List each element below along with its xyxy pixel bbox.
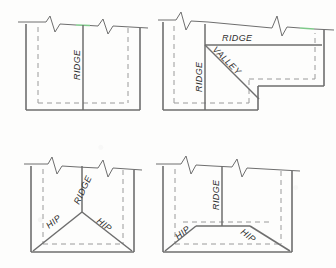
break-line-top-accent <box>300 28 314 29</box>
break-line-top-right <box>78 160 142 177</box>
panel-top-left: RIDGE <box>18 16 148 110</box>
label-hip-left: HIP <box>44 213 63 231</box>
label-ridge-vertical: RIDGE <box>211 179 221 210</box>
break-line-top <box>156 156 213 174</box>
label-ridge-vertical: RIDGE <box>194 61 204 92</box>
label-hip-left: HIP <box>173 224 192 242</box>
panel-bottom-right: RIDGE HIP HIP <box>156 156 300 252</box>
break-line-top-right <box>314 29 334 30</box>
label-ridge-vertical: RIDGE <box>72 49 82 80</box>
break-line-top <box>24 157 78 174</box>
roof-plan-diagram-sheet: RIDGE RIDGE RIDGE VALLEY <box>0 0 336 268</box>
panel-top-right: RIDGE RIDGE VALLEY <box>158 12 334 110</box>
label-valley-diagonal: VALLEY <box>211 44 244 77</box>
label-ridge-horizontal: RIDGE <box>222 33 253 43</box>
diagram-canvas: RIDGE RIDGE RIDGE VALLEY <box>0 0 336 268</box>
break-line-top <box>158 12 208 30</box>
label-hip-right: HIP <box>95 216 114 234</box>
label-ridge-vertical: RIDGE <box>72 173 94 205</box>
panel-bottom-left: RIDGE HIP HIP <box>24 157 142 252</box>
break-line-top-right <box>213 159 300 177</box>
